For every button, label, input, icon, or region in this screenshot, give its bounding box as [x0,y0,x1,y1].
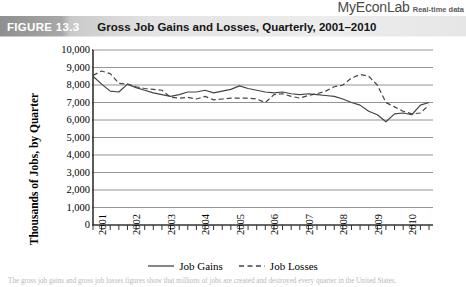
y-tick-label: 2,000 [38,185,90,195]
legend-item-job-losses: Job Losses [239,260,318,272]
x-tick-label: 2004 [200,214,211,235]
y-tick-label: 9,000 [38,63,90,73]
series-line-job-losses [93,71,429,114]
gridlines [93,50,433,225]
x-tick-label: 2010 [407,214,418,235]
figure-header-band: FIGURE 13.3 Gross Job Gains and Losses, … [0,16,466,37]
figure-number-label: FIGURE 13.3 [7,21,79,33]
x-tick-label: 2009 [373,214,384,235]
figure-title: Gross Job Gains and Losses, Quarterly, 2… [97,21,376,33]
chart-legend: Job Gains Job Losses [0,258,466,274]
x-tick-label: 2001 [97,214,108,235]
y-tick-label: 1,000 [38,203,90,213]
legend-swatch-solid [148,262,174,270]
y-tick-label: 6,000 [38,115,90,125]
x-axis-ticks [92,50,429,230]
x-tick-label: 2006 [269,214,280,235]
chart-figure: Thousands of Jobs, by Quarter 10,0009,00… [0,37,466,269]
y-tick-label: 0 [38,220,90,230]
x-tick-label: 2007 [304,214,315,235]
x-tick-label: 2002 [131,214,142,235]
legend-label-job-losses: Job Losses [270,260,318,272]
y-tick-label: 7,000 [38,98,90,108]
y-tick-label: 8,000 [38,80,90,90]
legend-swatch-dashed [239,262,265,270]
figure-caption: The gross job gains and gross job losses… [8,277,460,287]
x-tick-label: 2005 [235,214,246,235]
myeconlab-brand: MyEconLab Real-time data [338,0,464,14]
myeconlab-logo-text: MyEconLab [338,0,410,14]
y-axis-tick-labels: 10,0009,0008,0007,0006,0005,0004,0003,00… [38,37,90,269]
x-tick-label: 2003 [166,214,177,235]
x-tick-label: 2008 [338,214,349,235]
y-tick-label: 10,000 [38,45,90,55]
legend-label-job-gains: Job Gains [179,260,223,272]
y-tick-label: 3,000 [38,168,90,178]
series-line-job-gains [93,76,429,122]
legend-item-job-gains: Job Gains [148,260,223,272]
realtime-data-tag: Real-time data [413,5,464,15]
y-tick-label: 4,000 [38,150,90,160]
y-tick-label: 5,000 [38,133,90,143]
